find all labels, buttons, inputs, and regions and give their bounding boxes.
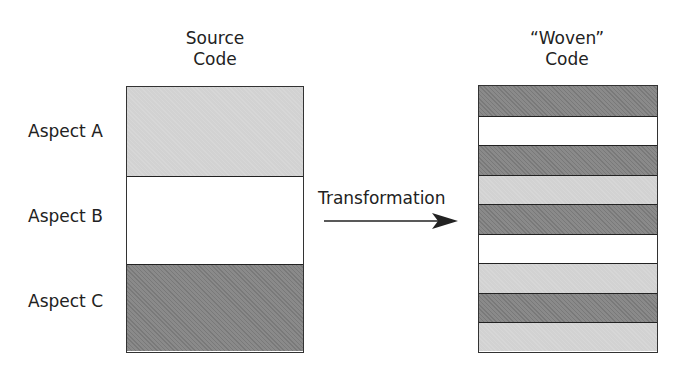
source-code-title: Source Code: [115, 28, 315, 70]
woven-stripe: [479, 116, 657, 146]
woven-stripe: [479, 175, 657, 205]
aspect-a-block: [127, 87, 303, 176]
transformation-label: Transformation: [318, 188, 446, 208]
source-title-line2: Code: [115, 49, 315, 70]
woven-stripe: [479, 145, 657, 175]
woven-stripe: [479, 86, 657, 116]
woven-stripe: [479, 293, 657, 323]
woven-code-box: [478, 85, 658, 353]
source-code-box: [126, 86, 304, 353]
aspect-a-label: Aspect A: [28, 121, 103, 141]
woven-title-line2: Code: [467, 49, 667, 70]
aspect-b-block: [127, 176, 303, 264]
woven-stripe: [479, 204, 657, 234]
woven-stripe: [479, 234, 657, 264]
woven-stripe: [479, 322, 657, 351]
woven-stripe: [479, 263, 657, 293]
aspect-c-block: [127, 264, 303, 351]
aspect-b-label: Aspect B: [28, 206, 103, 226]
source-title-line1: Source: [115, 28, 315, 49]
woven-code-title: “Woven” Code: [467, 28, 667, 70]
woven-title-line1: “Woven”: [467, 28, 667, 49]
aspect-c-label: Aspect C: [28, 291, 103, 311]
arrow-right-icon: [320, 210, 462, 232]
